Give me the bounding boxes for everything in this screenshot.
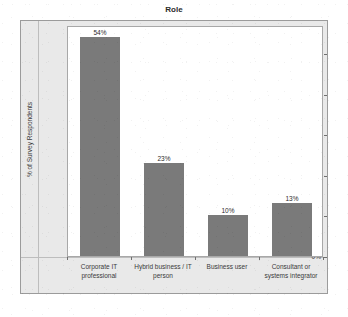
bar-value-label: 13% (267, 195, 317, 202)
x-tick-mark (323, 257, 324, 260)
y-tick-mark (324, 176, 327, 177)
x-category-label: Consultant or systems integrator (259, 263, 323, 280)
y-tick-mark (324, 135, 327, 136)
x-tick-mark (67, 257, 68, 260)
bar-value-label: 10% (203, 207, 253, 214)
y-tick-mark (324, 216, 327, 217)
y-axis-title-text: % of Survey Respondents (27, 101, 34, 176)
bar (272, 203, 312, 256)
x-category-label: Business user (195, 263, 259, 272)
bar (144, 163, 184, 256)
bar (80, 37, 120, 256)
bar (208, 215, 248, 256)
y-tick-mark (324, 54, 327, 55)
x-category-label: Hybrid business / IT person (131, 263, 195, 280)
x-tick-mark (259, 257, 260, 260)
y-tick-mark (324, 257, 327, 258)
y-axis-title: % of Survey Respondents (21, 21, 39, 257)
chart-title: Role (0, 5, 348, 14)
plot-area: 54%23%10%13% (67, 26, 323, 257)
bar-value-label: 54% (75, 29, 125, 36)
chart-frame: % of Survey Respondents 0%10%20%30%40%50… (20, 20, 328, 294)
y-tick-mark (324, 95, 327, 96)
bar-value-label: 23% (139, 155, 189, 162)
y-axis-title-strip: % of Survey Respondents (21, 21, 39, 293)
x-tick-mark (131, 257, 132, 260)
x-tick-mark (195, 257, 196, 260)
x-category-label: Corporate IT professional (67, 263, 131, 280)
